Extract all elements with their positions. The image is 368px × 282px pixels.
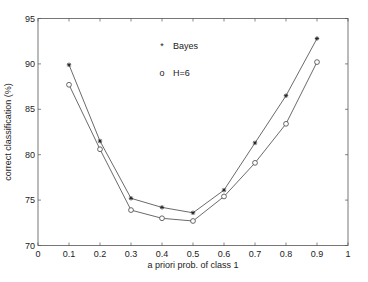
y-axis-label: correct classification (%) — [3, 83, 13, 181]
x-tick-labels: 00.10.20.30.40.50.60.70.80.91 — [35, 249, 350, 259]
legend-marker-h6: o — [159, 68, 164, 78]
series-h6 — [67, 60, 320, 224]
series-line — [69, 39, 317, 213]
data-point-star-marker — [129, 196, 133, 200]
data-point-circle-marker — [191, 219, 196, 224]
legend-label-h6: H=6 — [173, 68, 190, 78]
data-point-star-marker — [160, 205, 164, 209]
x-tick-label: 0.3 — [125, 249, 138, 259]
legend-marker-bayes: * — [160, 41, 164, 51]
x-tick-label: 0.7 — [249, 249, 262, 259]
x-tick-label: 0.2 — [94, 249, 107, 259]
x-tick-label: 1 — [345, 249, 350, 259]
y-tick-label: 95 — [25, 14, 35, 24]
data-point-circle-marker — [222, 194, 227, 199]
data-point-circle-marker — [284, 121, 289, 126]
data-point-star-marker — [315, 36, 319, 40]
x-tick-label: 0.5 — [187, 249, 200, 259]
x-tick-label: 0.9 — [311, 249, 324, 259]
x-tick-label: 0.4 — [156, 249, 169, 259]
legend-label-bayes: Bayes — [173, 41, 199, 51]
data-point-star-marker — [67, 63, 71, 67]
y-tick-label: 85 — [25, 104, 35, 114]
x-tick-label: 0.6 — [218, 249, 231, 259]
y-tick-labels: 707580859095 — [25, 14, 35, 251]
series-bayes — [67, 36, 319, 215]
x-tick-label: 0.1 — [63, 249, 76, 259]
data-point-star-marker — [284, 93, 288, 97]
data-point-circle-marker — [67, 82, 72, 87]
data-point-circle-marker — [253, 160, 258, 165]
data-point-star-marker — [222, 188, 226, 192]
data-point-circle-marker — [129, 208, 134, 213]
series-layer — [67, 36, 320, 223]
x-tick-label: 0 — [35, 249, 40, 259]
data-point-star-marker — [253, 141, 257, 145]
data-point-circle-marker — [315, 60, 320, 65]
y-tick-label: 90 — [25, 59, 35, 69]
series-line — [69, 62, 317, 221]
y-tick-label: 70 — [25, 241, 35, 251]
data-point-star-marker — [191, 211, 195, 215]
data-point-circle-marker — [98, 147, 103, 152]
y-tick-label: 80 — [25, 150, 35, 160]
y-tick-label: 75 — [25, 195, 35, 205]
data-point-circle-marker — [160, 216, 165, 221]
line-chart: 00.10.20.30.40.50.60.70.80.91 7075808590… — [0, 0, 368, 282]
data-point-star-marker — [98, 139, 102, 143]
x-tick-label: 0.8 — [280, 249, 293, 259]
legend: * Bayes o H=6 — [159, 41, 198, 78]
x-axis-label: a priori prob. of class 1 — [147, 260, 238, 270]
